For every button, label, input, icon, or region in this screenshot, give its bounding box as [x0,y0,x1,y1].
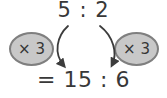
left-multiplier-label: × 3 [18,40,45,58]
right-multiplier-label: × 3 [123,40,150,58]
right-multiplier-badge: × 3 [114,32,159,66]
result-ratio-label: = 15 : 6 [0,67,167,92]
ratio-scaling-diagram: 5 : 2 × 3 × 3 = 15 : 6 [0,0,167,98]
left-multiplier-badge: × 3 [9,32,54,66]
right-curved-arrow-icon [100,26,115,65]
original-ratio-label: 5 : 2 [0,0,167,22]
left-curved-arrow-icon [57,26,68,66]
